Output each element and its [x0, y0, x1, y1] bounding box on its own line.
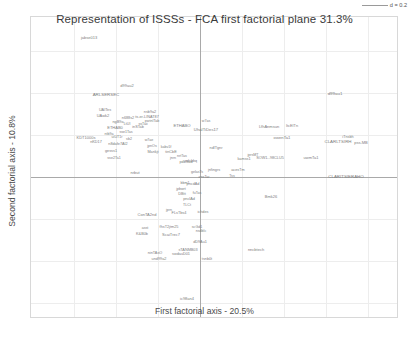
y-axis-label-text: Second factorial axis - 10.8%: [7, 96, 17, 246]
point-label: UAwk2: [97, 114, 110, 118]
gridline-vertical: [116, 17, 117, 317]
scale-bar-label: d = 0.2: [390, 2, 407, 8]
point-label: sse2Ta1: [107, 157, 120, 161]
point-label: ndlTgnr: [210, 147, 223, 151]
point-label: n8dafe7AI2: [108, 143, 127, 147]
point-label: CLARLTSIRH: [325, 140, 352, 144]
fca-biplot-figure: jabse013d99au2ARLSERSECd99au1UAITesUAwk2…: [0, 0, 409, 341]
point-label: asst: [142, 227, 149, 231]
point-label: kamss1: [237, 158, 250, 162]
point-label: ARLSERSEC: [93, 93, 120, 97]
point-label: fuTas: [193, 192, 202, 196]
point-label: fhsT2jtm25: [160, 226, 179, 230]
point-label: w7as: [202, 120, 210, 124]
point-label: iTnsbh: [342, 136, 353, 140]
point-label: ninTAsO: [148, 252, 163, 256]
point-label: UhaITiDes17: [194, 128, 218, 132]
point-label: ETHABO: [173, 124, 190, 128]
point-label: tinCbE: [165, 151, 176, 155]
point-label: gesss1: [105, 150, 117, 154]
point-label: ndsbbq: [185, 160, 197, 164]
point-label: ScaiTrec7: [162, 233, 180, 237]
point-label: ansTar: [199, 176, 210, 180]
point-label: tsnb0t: [202, 258, 212, 262]
point-label: ConTA2nd: [138, 213, 157, 217]
gridline-vertical: [242, 17, 243, 317]
axis-line-vertical: [200, 17, 201, 317]
point-label: owenTa1: [274, 136, 291, 140]
point-label: jpnOs: [147, 145, 156, 149]
point-label: nncbtech: [248, 248, 264, 252]
point-label: bbm1: [181, 182, 190, 186]
point-label: w7ae: [145, 139, 154, 143]
scale-bar: d = 0.2: [362, 2, 407, 8]
point-label: d99au1: [328, 92, 343, 96]
point-label: ichdes: [198, 211, 209, 215]
point-label: pss-MB: [354, 141, 368, 145]
point-label: LtUl: [124, 123, 130, 127]
point-label: uwmTa1: [304, 156, 319, 160]
gridline-vertical: [284, 17, 285, 317]
y-axis-label: Second factorial axis - 10.8%: [0, 0, 87, 341]
point-label: Bmk26: [265, 195, 277, 199]
gridline-vertical: [368, 17, 369, 317]
point-label: FLsTbs4: [172, 212, 187, 216]
point-label: ic98an4: [180, 297, 194, 301]
point-label: swdauD01: [172, 253, 190, 257]
point-label: TLCt: [183, 204, 191, 208]
point-label: d99au2: [120, 84, 133, 88]
point-label: SOW1--98CLU5: [256, 157, 284, 161]
point-label: K&B0b: [136, 233, 148, 237]
point-label: acesTm: [231, 169, 245, 173]
gridline-vertical: [326, 17, 327, 317]
point-label: nsdblc: [196, 230, 206, 234]
point-label: Tss: [229, 175, 234, 179]
scale-bar-line: [362, 5, 388, 6]
point-label: uiUT1r: [112, 136, 123, 140]
point-label: nKD17: [90, 141, 102, 145]
point-label: jnfingrs: [208, 169, 220, 173]
point-label: ItcEITn: [286, 125, 298, 129]
point-label: jnrn: [170, 157, 176, 161]
point-label: kabv1f: [161, 146, 172, 150]
gridline-vertical: [158, 17, 159, 317]
point-label: und99a2: [152, 258, 167, 262]
point-label: dD9Au1: [193, 241, 207, 245]
point-label: pnclAd: [183, 198, 195, 202]
point-label: Mankjt: [147, 151, 158, 155]
point-label: CLARITSIERAHO: [328, 175, 363, 179]
point-label: ssTaii: [139, 123, 148, 127]
point-label: nrbut: [130, 171, 139, 175]
point-label: n688s2: [122, 117, 134, 121]
point-label: LfhAnmsun: [259, 125, 279, 129]
